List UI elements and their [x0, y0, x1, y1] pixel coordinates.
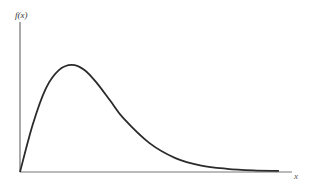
density-curve: [20, 65, 279, 172]
density-plot: f(x) x: [0, 0, 310, 188]
x-axis-label: x: [294, 171, 298, 181]
y-axis-label: f(x): [15, 10, 28, 20]
plot-canvas: [0, 0, 310, 188]
